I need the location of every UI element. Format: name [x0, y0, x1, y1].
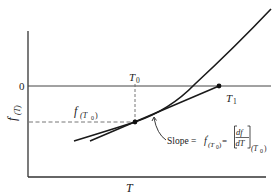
diagram-canvas: 0 f (T) T T 0 T 1 f (T 0 ) Slope = f ′ (… [0, 0, 276, 196]
svg-text:0: 0 [136, 76, 140, 85]
svg-text:(T: (T [80, 111, 88, 120]
svg-text:′: ′ [207, 133, 209, 141]
svg-text:T: T [129, 71, 136, 83]
f-t0-label: f (T 0 ) [74, 104, 98, 121]
tangent-line [90, 86, 219, 141]
svg-text:dT: dT [236, 138, 246, 148]
svg-text:f: f [74, 104, 79, 118]
svg-text:Slope =: Slope = [167, 136, 196, 146]
slope-annotation: Slope = f ′ (T 0 ) = df dT (T 0 ) [167, 126, 267, 154]
zero-label: 0 [19, 80, 25, 92]
point-t0 [133, 120, 138, 125]
svg-text:df: df [236, 127, 244, 137]
y-axis-label: f (T) [4, 105, 22, 121]
t1-label: T 1 [226, 92, 237, 106]
svg-text:): ) [264, 144, 267, 153]
slope-arrow [154, 118, 166, 140]
svg-text:0: 0 [260, 148, 263, 154]
point-t1 [217, 84, 222, 89]
bracket-right [248, 126, 251, 148]
svg-text:(T): (T) [13, 105, 22, 115]
svg-text:): ) [95, 111, 98, 120]
svg-text:(T: (T [208, 141, 215, 149]
svg-text:1: 1 [233, 97, 237, 106]
svg-text:T: T [226, 92, 233, 104]
svg-text:=: = [222, 136, 227, 146]
t0-label: T 0 [129, 71, 140, 85]
svg-text:(T: (T [251, 144, 258, 153]
svg-text:0: 0 [91, 115, 94, 121]
x-axis-label: T [126, 181, 134, 195]
function-curve [74, 9, 271, 141]
